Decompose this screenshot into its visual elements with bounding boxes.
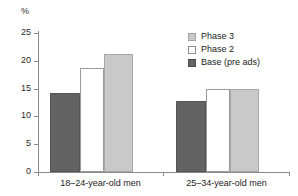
x-axis-label-group2: 25–34-year-old men: [164, 177, 289, 189]
legend-label-phase2: Phase 2: [201, 44, 234, 55]
y-tick-label: 25: [21, 27, 31, 38]
legend-item-phase2: Phase 2: [188, 43, 260, 56]
bar-group2-base: [176, 101, 206, 172]
x-axis-separator-left: [38, 172, 39, 176]
y-tick-label: 15: [21, 83, 31, 94]
x-axis-line: [38, 172, 290, 173]
y-tick-mark: [34, 61, 38, 62]
y-tick-mark: [34, 33, 38, 34]
x-axis-separator-right: [289, 172, 290, 176]
bar-chart: % 0 5 10 15 20 25: [0, 0, 298, 196]
x-axis-label-group1: 18–24-year-old men: [38, 177, 163, 189]
x-axis-separator-middle: [163, 172, 164, 176]
y-tick-mark: [34, 116, 38, 117]
y-tick-label: 5: [26, 138, 31, 149]
bar-group1-phase3: [104, 54, 133, 172]
bar-group2-phase2: [206, 89, 230, 172]
y-tick-label: 0: [26, 166, 31, 177]
legend-item-base: Base (pre ads): [188, 56, 260, 69]
legend-label-base: Base (pre ads): [201, 57, 260, 68]
legend-swatch-icon-phase3: [188, 33, 196, 41]
legend-swatch-icon-phase2: [188, 46, 196, 54]
bar-group2-phase3: [230, 89, 259, 172]
chart-legend: Phase 3 Phase 2 Base (pre ads): [188, 30, 260, 69]
y-axis-unit-label: %: [21, 6, 29, 17]
bar-group1-base: [50, 93, 80, 172]
bar-group1-phase2: [80, 68, 104, 172]
y-tick-mark: [34, 144, 38, 145]
legend-item-phase3: Phase 3: [188, 30, 260, 43]
y-tick-mark: [34, 89, 38, 90]
y-tick-label: 20: [21, 55, 31, 66]
y-tick-label: 10: [21, 110, 31, 121]
legend-label-phase3: Phase 3: [201, 31, 234, 42]
legend-swatch-icon-base: [188, 59, 196, 67]
